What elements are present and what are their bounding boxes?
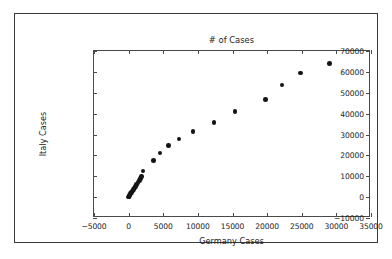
scatter-point	[158, 151, 163, 156]
x-axis-tick-top	[233, 50, 234, 53]
x-axis-tick-top	[302, 50, 303, 53]
scatter-point	[263, 97, 268, 102]
y-axis-tick-right	[366, 51, 369, 52]
x-axis-tick-label: 25000	[290, 222, 314, 231]
y-axis-tick	[93, 114, 96, 115]
y-axis-tick	[93, 135, 96, 136]
y-axis-tick-label: 20000	[340, 151, 364, 160]
screenshot-root: # of Cases Italy Cases Germany Cases −50…	[0, 0, 392, 259]
scatter-point	[233, 109, 238, 114]
chart-title: # of Cases	[93, 35, 370, 45]
scatter-point	[177, 137, 182, 142]
x-axis-tick	[198, 213, 199, 216]
scatter-point	[151, 158, 156, 163]
scatter-point	[141, 169, 146, 174]
y-axis-tick-right	[366, 135, 369, 136]
x-axis-tick	[163, 213, 164, 216]
y-axis-tick-label: 70000	[340, 47, 364, 56]
x-axis-tick	[371, 213, 372, 216]
y-axis-tick-right	[366, 114, 369, 115]
x-axis-label: Germany Cases	[93, 236, 370, 246]
x-axis-tick-label: 5000	[154, 222, 173, 231]
x-axis-tick	[94, 213, 95, 216]
x-axis-tick-top	[267, 50, 268, 53]
y-axis-tick-right	[366, 218, 369, 219]
y-axis-tick-label: 50000	[340, 88, 364, 97]
x-axis-tick-top	[129, 50, 130, 53]
x-axis-tick-top	[336, 50, 337, 53]
x-axis-tick	[302, 213, 303, 216]
y-axis-tick-right	[366, 72, 369, 73]
y-axis-tick-label: 40000	[340, 109, 364, 118]
x-axis-tick-label: −5000	[81, 222, 106, 231]
x-axis-tick-top	[163, 50, 164, 53]
y-axis-tick	[93, 72, 96, 73]
y-axis-tick-right	[366, 176, 369, 177]
x-axis-tick	[129, 213, 130, 216]
x-axis-tick-label: 10000	[186, 222, 210, 231]
y-axis-tick-label: 60000	[340, 67, 364, 76]
figure-frame: # of Cases Italy Cases Germany Cases −50…	[14, 13, 378, 243]
scatter-points-layer	[94, 51, 369, 216]
x-axis-tick-label: 15000	[221, 222, 245, 231]
x-axis-tick-label: 0	[126, 222, 131, 231]
scatter-point	[298, 71, 303, 76]
x-axis-tick	[267, 213, 268, 216]
y-axis-tick	[93, 51, 96, 52]
scatter-point	[280, 83, 285, 88]
x-axis-tick-label: 20000	[255, 222, 279, 231]
y-axis-tick	[93, 218, 96, 219]
y-axis-label-text: Italy Cases	[38, 111, 48, 156]
x-axis-tick-label: 30000	[325, 222, 349, 231]
y-axis-tick-label: −10000	[334, 214, 364, 223]
plot-area: −500005000100001500020000250003000035000…	[93, 50, 370, 217]
scatter-point	[212, 120, 217, 125]
x-axis-tick-top	[198, 50, 199, 53]
scatter-point	[191, 129, 196, 134]
y-axis-tick	[93, 155, 96, 156]
x-axis-tick	[233, 213, 234, 216]
x-axis-tick-label: 35000	[359, 222, 383, 231]
scatter-point	[166, 143, 171, 148]
y-axis-tick-right	[366, 93, 369, 94]
y-axis-tick-label: 30000	[340, 130, 364, 139]
y-axis-label: Italy Cases	[37, 50, 49, 217]
y-axis-tick-label: 0	[359, 193, 364, 202]
x-axis-tick-top	[371, 50, 372, 53]
scatter-point	[327, 61, 332, 66]
y-axis-tick	[93, 197, 96, 198]
y-axis-tick-right	[366, 197, 369, 198]
y-axis-tick	[93, 93, 96, 94]
scatter-point	[139, 174, 144, 179]
y-axis-tick-label: 10000	[340, 172, 364, 181]
y-axis-tick	[93, 176, 96, 177]
y-axis-tick-right	[366, 155, 369, 156]
